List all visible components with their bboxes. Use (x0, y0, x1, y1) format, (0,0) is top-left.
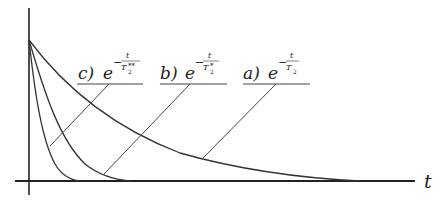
svg-text:T: T (286, 63, 292, 72)
label-c: c) e − t T 2 ** (78, 51, 140, 83)
svg-text:a): a) (243, 63, 260, 83)
leader-line-a (202, 84, 276, 159)
svg-text:t: t (126, 51, 130, 60)
svg-text:b): b) (160, 63, 178, 83)
svg-text:c): c) (78, 63, 94, 83)
svg-text:2: 2 (293, 68, 297, 75)
svg-text:e: e (103, 63, 113, 83)
svg-text:t: t (208, 51, 212, 60)
curve-c (29, 40, 80, 181)
svg-text:t: t (290, 51, 294, 60)
label-b: b) e − t T 2 * (160, 51, 219, 83)
decay-diagram: t c) e − t T 2 ** b) e − t T 2 * a) e − … (0, 0, 445, 203)
svg-text:*: * (210, 62, 214, 70)
leader-line-b (104, 84, 190, 174)
x-axis-label: t (424, 170, 432, 192)
svg-text:e: e (185, 63, 195, 83)
svg-text:T: T (121, 63, 127, 72)
label-a: a) e − t T 2 (243, 51, 299, 83)
svg-text:e: e (268, 63, 278, 83)
svg-text:T: T (203, 63, 209, 72)
svg-text:**: ** (128, 62, 136, 70)
